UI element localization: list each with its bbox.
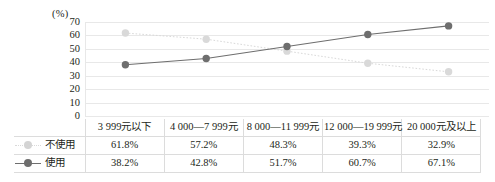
table-cell-value: 42.8% [164,155,243,173]
y-axis: 706050403020100 [52,22,80,116]
gridline [85,116,489,117]
data-point-marker [283,43,290,50]
legend-item-2[interactable]: 使用 [14,155,85,173]
data-point-marker [364,31,371,38]
table-cell-value: 61.8% [85,137,164,155]
legend-item-1[interactable]: 不使用 [14,137,85,155]
y-axis-tick-label: 60 [52,30,80,40]
table-header-row: 3 999元以下4 000—7 999元8 000—11 999元12 000—… [14,119,481,137]
legend-label: 不使用 [45,139,75,151]
data-point-marker [203,55,210,62]
y-axis-tick-label: 10 [52,98,80,108]
table-column-header: 4 000—7 999元 [164,119,243,137]
table-cell-value: 32.9% [402,137,481,155]
table-cell-value: 67.1% [402,155,481,173]
table-cell-value: 60.7% [323,155,402,173]
table-column-header: 3 999元以下 [85,119,164,137]
table-cell-value: 57.2% [164,137,243,155]
series-lines-and-markers [85,22,489,116]
legend-marker-icon [15,159,41,168]
table-cell-value: 39.3% [323,137,402,155]
table-column-header: 20 000元及以上 [402,119,481,137]
y-axis-tick-label: 30 [52,71,80,81]
data-table-wrapper: 3 999元以下4 000—7 999元8 000—11 999元12 000—… [14,119,481,173]
data-point-marker [364,60,371,67]
data-point-marker [122,61,129,68]
table-row: 使用38.2%42.8%51.7%60.7%67.1% [14,155,481,173]
data-table: 3 999元以下4 000—7 999元8 000—11 999元12 000—… [14,119,481,173]
table-cell-value: 51.7% [243,155,322,173]
table-column-header: 8 000—11 999元 [243,119,322,137]
y-axis-tick-label: 50 [52,44,80,54]
table-cell-value: 38.2% [85,155,164,173]
chart-figure: (%) 706050403020100 3 999元以下4 000—7 999元… [0,0,495,182]
y-axis-tick-label: 70 [52,17,80,27]
table-corner-cell [14,119,85,137]
chart-plot-region: (%) 706050403020100 [0,0,495,120]
y-axis-tick-label: 40 [52,57,80,67]
data-point-marker [445,68,452,75]
legend-marker-icon [15,141,41,150]
y-axis-tick-label: 20 [52,84,80,94]
data-point-marker [203,35,210,42]
table-column-header: 12 000—19 999元 [323,119,402,137]
data-point-marker [122,29,129,36]
legend-dot-icon [24,159,32,167]
data-point-marker [445,22,452,29]
legend-dot-icon [24,141,32,149]
legend-label: 使用 [45,157,65,169]
plot-area [85,22,489,116]
table-cell-value: 48.3% [243,137,322,155]
table-row: 不使用61.8%57.2%48.3%39.3%32.9% [14,137,481,155]
